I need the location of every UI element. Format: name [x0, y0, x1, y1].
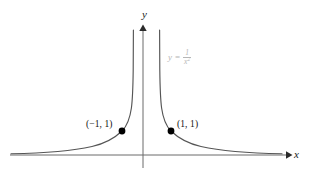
- marked-point-left: [119, 128, 126, 135]
- marked-point-right: [168, 128, 175, 135]
- y-axis-arrowhead: [139, 25, 146, 32]
- equation-lhs: y: [168, 53, 172, 62]
- equation-equals-sign: =: [175, 53, 180, 62]
- equation-fraction: 1 x2: [183, 49, 191, 66]
- equation-denominator: x2: [183, 58, 191, 66]
- point-label-left: (−1, 1): [86, 120, 113, 130]
- equation-denominator-exponent: 2: [187, 56, 190, 62]
- curve-left-branch: [11, 30, 133, 154]
- y-axis-label: y: [142, 9, 147, 20]
- plot-canvas: [0, 0, 310, 176]
- point-label-right: (1, 1): [177, 120, 198, 130]
- graph-figure: y x (−1, 1) (1, 1) y = 1 x2: [0, 0, 310, 176]
- equation-annotation: y = 1 x2: [168, 49, 191, 66]
- x-axis-label: x: [294, 149, 299, 160]
- x-axis-arrowhead: [286, 151, 293, 159]
